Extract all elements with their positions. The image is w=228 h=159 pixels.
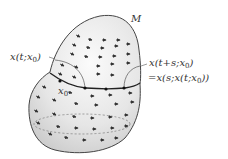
- point-xt: [83, 86, 86, 89]
- manifold-label: M: [131, 14, 141, 24]
- label-flow-at-t: x(t;x0): [10, 52, 41, 64]
- label-group-property: =x(s;x(t;x0)): [148, 73, 209, 85]
- label-flow-at-t-plus-s: x(t+s;x0): [149, 58, 193, 70]
- leader-right: [141, 64, 147, 66]
- point-xts: [122, 86, 125, 89]
- initial-point-label: x0: [58, 86, 68, 98]
- point-mid: [104, 87, 107, 90]
- point-x0: [58, 79, 61, 82]
